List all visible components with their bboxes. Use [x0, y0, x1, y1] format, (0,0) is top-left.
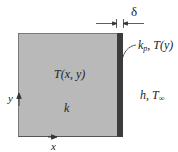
plate-strip [117, 33, 123, 137]
convection-label: h, T∞ [140, 89, 164, 105]
block-temperature-label: T(x, y) [54, 68, 85, 80]
heat-transfer-diagram: δ kp, T(y) T(x, y) k h, T∞ y x [0, 0, 178, 152]
plate-label: kp, T(y) [138, 39, 173, 55]
y-axis-label: y [8, 92, 13, 104]
convection-infinity-sub: ∞ [159, 94, 165, 103]
plate-temperature-label: , T(y) [147, 38, 173, 52]
convection-h-label: h, T [140, 88, 159, 102]
thickness-label: δ [131, 6, 137, 18]
solid-block [18, 33, 117, 137]
thickness-dimension-arrows [96, 19, 144, 28]
plate-leader-line [122, 45, 136, 60]
block-conductivity-label: k [64, 102, 69, 114]
x-axis-label: x [51, 140, 56, 152]
